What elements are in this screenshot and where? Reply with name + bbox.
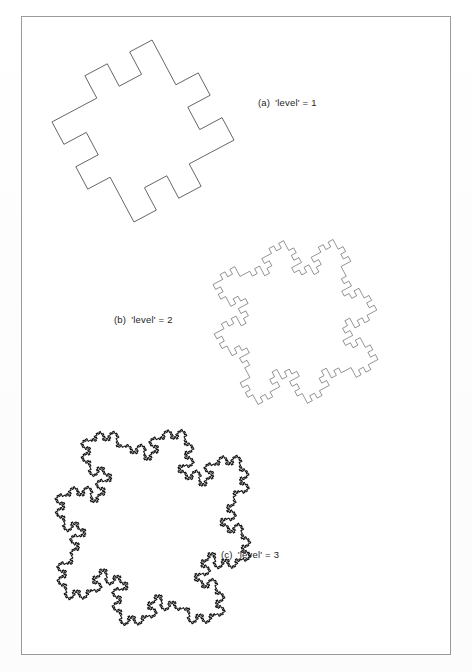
caption-panel-c: (c)'level' = 3: [221, 549, 279, 560]
caption-text-a: 'level' = 1: [275, 97, 316, 108]
caption-panel-a: (a)'level' = 1: [258, 97, 317, 108]
caption-text-b: 'level' = 2: [131, 314, 172, 325]
caption-index-a: (a): [258, 97, 270, 108]
caption-index-b: (b): [114, 314, 126, 325]
caption-text-c: 'level' = 3: [238, 549, 279, 560]
figure-page: (a)'level' = 1 (b)'level' = 2 (c)'level'…: [0, 0, 472, 672]
caption-index-c: (c): [221, 549, 233, 560]
caption-panel-b: (b)'level' = 2: [114, 314, 173, 325]
